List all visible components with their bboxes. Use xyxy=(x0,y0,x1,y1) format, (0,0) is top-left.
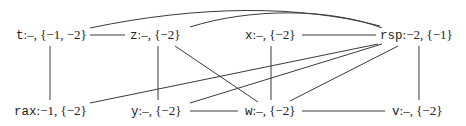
node-label: :–, {−2} xyxy=(253,103,296,118)
edge-rsp-y xyxy=(190,44,382,103)
edge-t-rsp xyxy=(90,10,380,28)
node-rax: rax:−1, {−2} xyxy=(12,104,89,119)
node-var: z xyxy=(130,29,138,43)
node-label: :–, {−2} xyxy=(138,27,181,42)
node-var: x xyxy=(245,29,253,43)
node-label: :−2, {−1} xyxy=(403,27,453,42)
node-var: t xyxy=(16,29,24,43)
node-y: y:–, {−2} xyxy=(129,104,183,119)
node-label: :–, {−2} xyxy=(253,27,296,42)
node-z: z:–, {−2} xyxy=(128,28,182,43)
node-var: rax xyxy=(14,105,37,119)
node-label: :–, {−2} xyxy=(400,103,443,118)
node-w: w:–, {−2} xyxy=(243,104,297,119)
node-label: :–, {−2} xyxy=(139,103,182,118)
edge-rsp-w xyxy=(290,46,398,101)
edge-z-rsp xyxy=(190,13,382,28)
node-var: y xyxy=(131,105,139,119)
node-var: v xyxy=(392,105,400,119)
node-rsp: rsp:−2, {−1} xyxy=(378,28,455,43)
node-var: rsp xyxy=(380,29,403,43)
node-label: :–, {−1, −2} xyxy=(24,27,87,42)
edge-rsp-rax xyxy=(90,44,378,103)
edge-z-w xyxy=(175,46,258,102)
node-v: v:–, {−2} xyxy=(390,104,444,119)
node-t: t:–, {−1, −2} xyxy=(14,28,89,43)
node-var: w xyxy=(245,105,253,119)
node-label: :−1, {−2} xyxy=(37,103,87,118)
node-x: x:–, {−2} xyxy=(243,28,297,43)
